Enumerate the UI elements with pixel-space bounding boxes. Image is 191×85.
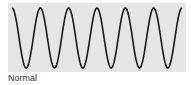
waveform-caption: Normal xyxy=(8,73,37,83)
